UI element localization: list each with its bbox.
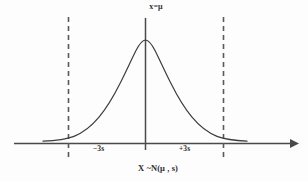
minus-three-sigma-tick-label: −3s: [93, 145, 104, 153]
mean-axis-label: x=μ: [0, 3, 308, 11]
figure-canvas: [0, 0, 308, 182]
x-axis-arrowhead-icon: [290, 139, 299, 148]
normal-distribution-figure: x=μ −3s +3s X ~N(μ , s): [0, 0, 308, 182]
distribution-caption: X ~N(μ , s): [0, 164, 308, 173]
plus-three-sigma-tick-label: +3s: [179, 145, 190, 153]
